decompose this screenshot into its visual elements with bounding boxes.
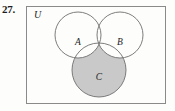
set-label-b: B <box>117 37 123 47</box>
venn-diagram-figure: U A B C <box>0 0 175 111</box>
universal-set-label: U <box>34 9 42 20</box>
set-label-a: A <box>74 37 81 47</box>
set-label-c: C <box>96 72 103 82</box>
exercise-figure-page: 27. U A B C <box>0 0 175 111</box>
